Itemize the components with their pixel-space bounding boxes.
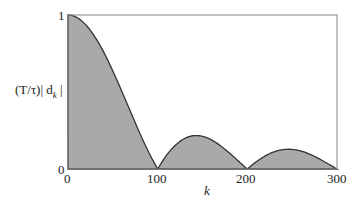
x-tick-200: 200 bbox=[236, 172, 256, 185]
x-tick-0: 0 bbox=[64, 172, 71, 185]
x-tick-100: 100 bbox=[147, 172, 167, 185]
x-tick-300: 300 bbox=[327, 172, 347, 185]
y-tick-1: 1 bbox=[58, 9, 65, 22]
x-axis-label: k bbox=[204, 184, 210, 197]
y-axis-label: (T/τ)| dk | bbox=[15, 83, 63, 100]
sinc-area bbox=[68, 15, 337, 169]
